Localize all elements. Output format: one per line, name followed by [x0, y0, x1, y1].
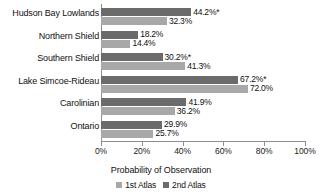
legend-label: 2nd Atlas: [172, 180, 206, 190]
x-tick-label: 20%: [133, 146, 150, 156]
bar-1st-atlas: [101, 130, 153, 138]
bar-chart: Hudson Bay LowlandsNorthern ShieldSouthe…: [0, 0, 322, 195]
x-tick-label: 100%: [294, 146, 315, 156]
bar-1st-atlas: [101, 107, 175, 115]
category-label: Southern Shield: [1, 53, 99, 63]
bar-1st-atlas: [101, 17, 167, 25]
bar-value-label-2nd-atlas: 29.9%: [164, 120, 187, 128]
bar-value-label-1st-atlas: 25.7%: [155, 129, 178, 137]
legend-item: 1st Atlas: [116, 180, 156, 190]
legend-item: 2nd Atlas: [163, 180, 206, 190]
x-tick-label: 80%: [256, 146, 273, 156]
x-axis-line: [101, 141, 306, 142]
bar-value-label-2nd-atlas: 44.2%*: [193, 8, 219, 16]
bar-1st-atlas: [101, 40, 130, 48]
x-tick-label: 0%: [95, 146, 107, 156]
bar-group: 67.2%*72.0%: [101, 76, 305, 93]
bar-group: 30.2%*41.3%: [101, 53, 305, 70]
bar-value-label-2nd-atlas: 18.2%: [140, 30, 163, 38]
bar-2nd-atlas: [101, 8, 191, 16]
category-label: Carolinian: [1, 98, 99, 108]
bar-value-label-2nd-atlas: 41.9%: [188, 98, 211, 106]
category-label: Northern Shield: [1, 31, 99, 41]
category-axis-labels: Hudson Bay LowlandsNorthern ShieldSouthe…: [0, 0, 99, 145]
plot-area: 44.2%*32.3%18.2%14.4%30.2%*41.3%67.2%*72…: [101, 4, 305, 141]
bar-1st-atlas: [101, 85, 248, 93]
bar-group: 44.2%*32.3%: [101, 8, 305, 25]
legend-label: 1st Atlas: [125, 180, 156, 190]
x-tick-label: 60%: [215, 146, 232, 156]
category-label: Hudson Bay Lowlands: [1, 8, 99, 18]
bar-value-label-1st-atlas: 14.4%: [132, 39, 155, 47]
bar-value-label-1st-atlas: 72.0%: [250, 84, 273, 92]
chart-legend: 1st Atlas2nd Atlas: [0, 180, 322, 190]
bar-value-label-1st-atlas: 32.3%: [169, 17, 192, 25]
bar-1st-atlas: [101, 62, 185, 70]
x-axis-title: Probability of Observation: [0, 165, 322, 175]
bar-2nd-atlas: [101, 53, 163, 61]
category-label: Ontario: [1, 121, 99, 131]
bar-2nd-atlas: [101, 76, 238, 84]
bar-group: 29.9%25.7%: [101, 121, 305, 138]
bar-value-label-1st-atlas: 41.3%: [187, 62, 210, 70]
bar-group: 18.2%14.4%: [101, 31, 305, 48]
bar-value-label-2nd-atlas: 30.2%*: [165, 53, 191, 61]
x-tick-label: 40%: [174, 146, 191, 156]
bar-2nd-atlas: [101, 121, 162, 129]
legend-swatch-icon: [116, 182, 122, 188]
bar-value-label-1st-atlas: 36.2%: [177, 107, 200, 115]
legend-swatch-icon: [163, 182, 169, 188]
bar-value-label-2nd-atlas: 67.2%*: [240, 75, 266, 83]
bar-group: 41.9%36.2%: [101, 98, 305, 115]
bar-2nd-atlas: [101, 98, 186, 106]
category-label: Lake Simcoe-Rideau: [1, 76, 99, 86]
